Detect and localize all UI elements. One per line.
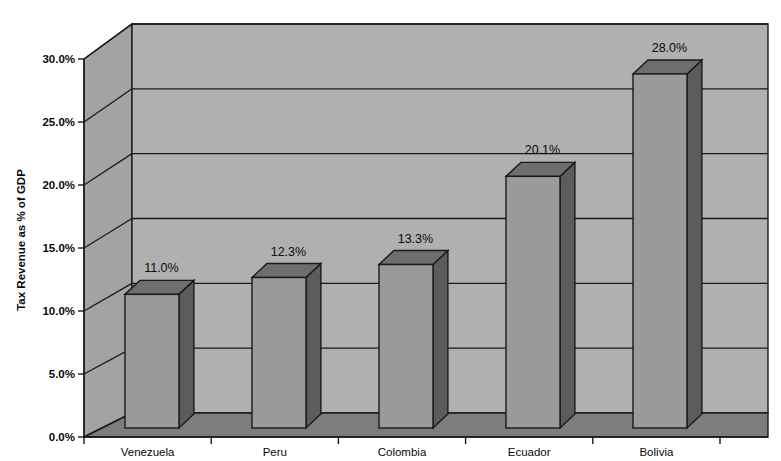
x-axis-category-label: Bolivia bbox=[639, 446, 673, 458]
x-axis-category-label: Peru bbox=[263, 446, 287, 458]
x-axis-ticks bbox=[84, 437, 720, 444]
x-axis-category-label: Colombia bbox=[378, 446, 427, 458]
bar-front-face bbox=[379, 265, 433, 428]
bar-value-label: 13.3% bbox=[398, 232, 433, 246]
y-axis-tick-label: 5.0% bbox=[49, 368, 75, 380]
bar-side-face bbox=[560, 162, 575, 428]
y-axis-tick-label: 0.0% bbox=[49, 431, 75, 443]
y-axis-title: Tax Revenue as % of GDP bbox=[15, 169, 27, 311]
y-axis-ticks bbox=[78, 59, 84, 437]
x-axis-category-label: Ecuador bbox=[508, 446, 551, 458]
bar-chart-3d: 0.0%5.0%10.0%15.0%20.0%25.0%30.0% Venezu… bbox=[0, 0, 781, 461]
y-axis-tick-label: 20.0% bbox=[42, 179, 75, 191]
chart-container: 0.0%5.0%10.0%15.0%20.0%25.0%30.0% Venezu… bbox=[0, 0, 781, 461]
y-axis-tick-label: 25.0% bbox=[42, 116, 75, 128]
y-axis-tick-label: 15.0% bbox=[42, 242, 75, 254]
bar-value-label: 20.1% bbox=[525, 143, 560, 157]
y-axis-tick-labels: 0.0%5.0%10.0%15.0%20.0%25.0%30.0% bbox=[42, 53, 75, 443]
bar-side-face bbox=[306, 264, 321, 428]
bar-column[interactable] bbox=[379, 251, 448, 428]
bar-column[interactable] bbox=[252, 264, 321, 428]
x-axis bbox=[84, 437, 768, 444]
bar-side-face bbox=[179, 280, 194, 428]
bar-column[interactable] bbox=[633, 60, 702, 428]
y-axis-tick-label: 30.0% bbox=[42, 53, 75, 65]
bar-value-label: 12.3% bbox=[271, 245, 306, 259]
bar-front-face bbox=[252, 278, 306, 428]
bar-column[interactable] bbox=[506, 162, 575, 428]
y-axis bbox=[78, 59, 84, 437]
bar-value-label: 28.0% bbox=[652, 41, 687, 55]
y-axis-tick-label: 10.0% bbox=[42, 305, 75, 317]
bar-column[interactable] bbox=[125, 280, 194, 428]
bar-front-face bbox=[633, 74, 687, 428]
x-axis-category-labels: VenezuelaPeruColombiaEcuadorBolivia bbox=[121, 446, 674, 458]
bar-side-face bbox=[687, 60, 702, 428]
bar-value-label: 11.0% bbox=[144, 261, 179, 275]
bar-side-face bbox=[433, 251, 448, 428]
bar-front-face bbox=[125, 294, 179, 428]
x-axis-category-label: Venezuela bbox=[121, 446, 175, 458]
bar-front-face bbox=[506, 176, 560, 428]
